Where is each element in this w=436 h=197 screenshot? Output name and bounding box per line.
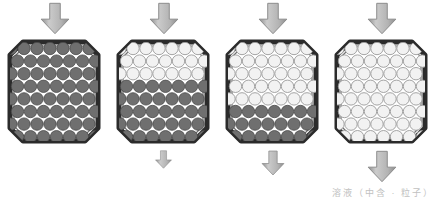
dark-particle [83,118,95,130]
dark-particle [275,118,287,130]
dark-particle [133,80,145,92]
bottom-arrow-slot-2 [109,150,218,196]
light-particle [146,55,158,67]
light-particle [301,68,313,80]
light-particle [179,42,191,54]
dark-particle [44,93,56,105]
light-particle [358,118,370,130]
light-particle [166,68,178,80]
dark-particle [159,80,171,92]
light-particle [377,105,389,117]
light-particle [390,80,402,92]
dark-particle [301,118,313,130]
light-particle [249,42,261,54]
light-particle [358,42,370,54]
light-particle [140,42,152,54]
light-particle [133,55,145,67]
vessel-2 [115,38,211,145]
light-particle [262,93,274,105]
light-particle [166,42,178,54]
vessel-1 [6,38,102,145]
dark-particle [192,93,204,105]
arrow-down-icon-bottom-3 [260,150,286,176]
panel-3 [218,0,327,197]
light-particle [364,80,376,92]
light-particle [159,55,171,67]
dark-particle [192,118,204,130]
dark-particle [166,118,178,130]
dark-particle [133,105,145,117]
dark-particle [268,105,280,117]
light-particle [397,42,409,54]
light-particle [403,105,415,117]
light-particle [120,55,132,67]
dark-particle [44,68,56,80]
dark-particle [70,118,82,130]
dark-particle [179,118,191,130]
light-particle [338,80,350,92]
dark-particle [185,105,197,117]
arrow-down-icon-top-2 [147,2,181,35]
dark-particle [120,80,132,92]
top-arrow-slot-4 [327,2,436,36]
bottom-arrow-slot-3 [218,150,327,196]
dark-particle [140,93,152,105]
light-particle [410,93,422,105]
light-particle [153,68,165,80]
panel-4 [327,0,436,197]
panel-1 [0,0,109,197]
dark-particle [294,105,306,117]
dark-particle [153,118,165,130]
light-particle [262,42,274,54]
light-particle [384,93,396,105]
light-particle [371,42,383,54]
dark-particle [37,105,49,117]
light-particle [403,80,415,92]
light-particle [242,80,254,92]
dark-particle [146,105,158,117]
dark-particle [288,118,300,130]
light-particle [288,42,300,54]
light-particle [255,80,267,92]
light-particle [192,68,204,80]
light-particle [390,55,402,67]
dark-particle [11,80,23,92]
dark-particle [127,93,139,105]
light-particle [390,105,402,117]
dark-particle [140,118,152,130]
dark-particle [281,105,293,117]
light-particle [345,68,357,80]
dark-particle [172,80,184,92]
dark-particle [83,93,95,105]
dark-particle [57,93,69,105]
dark-particle [70,93,82,105]
dark-particle [50,80,62,92]
light-particle [358,93,370,105]
top-arrow-slot-3 [218,2,327,36]
light-particle [229,55,241,67]
light-particle [410,118,422,130]
dark-particle [44,42,56,54]
dark-particle [18,93,30,105]
dark-particle [24,105,36,117]
light-particle [397,68,409,80]
dark-particle [50,55,62,67]
dark-particle [76,105,88,117]
light-particle [294,80,306,92]
dark-particle [18,118,30,130]
dark-particle [76,55,88,67]
light-particle [236,93,248,105]
light-particle [281,80,293,92]
light-particle [371,93,383,105]
dark-particle [31,42,43,54]
light-particle [364,105,376,117]
dark-particle [153,93,165,105]
vessel-3 [224,38,320,145]
figure-caption: 溶液（中含 · 粒子） [332,186,434,197]
light-particle [281,55,293,67]
dark-particle [146,80,158,92]
light-particle [268,55,280,67]
dark-particle [44,118,56,130]
light-particle [127,68,139,80]
light-particle [153,42,165,54]
